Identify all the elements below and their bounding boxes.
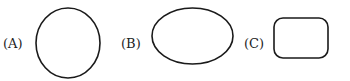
shapes-canvas [0, 0, 350, 81]
ellipse-shape [152, 8, 233, 64]
circle-shape [36, 8, 100, 78]
rounded-rectangle-shape [274, 18, 328, 58]
